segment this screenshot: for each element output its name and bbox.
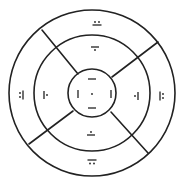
middle-top-dot-icon [94, 49, 96, 51]
outer-left-dot-icon [19, 96, 21, 98]
outer-right-dot-icon [162, 97, 164, 99]
center-dot-icon [91, 93, 93, 95]
middle-left-dot-icon [46, 94, 48, 96]
outer-left-dot-icon [19, 92, 21, 94]
ring-diagram [0, 0, 185, 193]
divider-lower-right [111, 112, 148, 153]
ring-inner [68, 69, 116, 117]
divider-upper-left [42, 30, 78, 74]
ring-diagram-canvas [0, 0, 185, 193]
divider-lower-left [29, 111, 73, 144]
outer-top-dot-icon [94, 21, 96, 23]
middle-bottom-dot-icon [90, 131, 92, 133]
divider-upper-right [112, 42, 158, 77]
outer-top-dot-icon [98, 21, 100, 23]
outer-bottom-dot-icon [93, 163, 95, 165]
ring-middle [34, 35, 150, 151]
outer-right-dot-icon [162, 93, 164, 95]
outer-bottom-dot-icon [89, 163, 91, 165]
middle-right-dot-icon [134, 95, 136, 97]
